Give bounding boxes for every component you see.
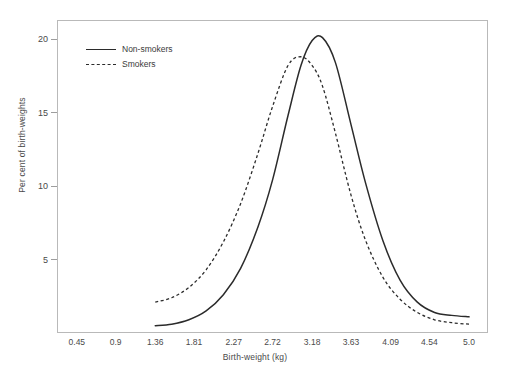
y-tick-mark <box>51 186 57 187</box>
y-tick-mark <box>51 112 57 113</box>
x-tick-label: 4.09 <box>382 337 399 347</box>
x-tick-label: 3.63 <box>343 337 360 347</box>
legend-label: Smokers <box>122 57 156 72</box>
chart-legend: Non-smokers Smokers <box>86 42 216 72</box>
x-tick-label: 0.45 <box>69 337 86 347</box>
x-tick-label: 5.0 <box>463 337 475 347</box>
legend-label: Non-smokers <box>122 42 173 57</box>
x-tick-label: 0.9 <box>110 337 122 347</box>
x-tick-label: 4.54 <box>421 337 438 347</box>
x-tick-label: 3.18 <box>304 337 321 347</box>
legend-item-smokers: Smokers <box>86 57 216 72</box>
legend-line-solid-icon <box>86 49 116 50</box>
y-tick-label: 20 <box>38 33 48 45</box>
series-non-smokers <box>155 36 469 326</box>
y-axis-title: Per cent of birth-weights <box>17 60 27 230</box>
y-tick-mark <box>51 39 57 40</box>
y-tick-label: 15 <box>38 107 48 119</box>
series-smokers <box>155 57 469 324</box>
y-tick-label: 10 <box>38 180 48 192</box>
y-tick-mark <box>51 259 57 260</box>
x-tick-label: 2.72 <box>264 337 281 347</box>
x-tick-label: 1.81 <box>186 337 203 347</box>
x-axis-title: Birth-weight (kg) <box>0 352 510 362</box>
curve-layer <box>0 0 510 376</box>
birth-weight-distribution-chart: 5101520 0.450.91.361.812.272.723.183.634… <box>0 0 510 376</box>
x-tick-label: 2.27 <box>225 337 242 347</box>
legend-line-dashed-icon <box>86 64 116 65</box>
y-axis-ticks: 5101520 <box>0 0 57 376</box>
x-tick-label: 1.36 <box>147 337 164 347</box>
y-tick-label: 5 <box>43 254 48 266</box>
legend-item-non-smokers: Non-smokers <box>86 42 216 57</box>
